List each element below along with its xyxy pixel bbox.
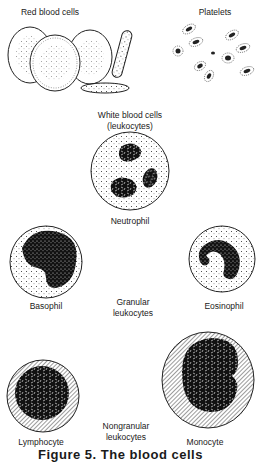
lymphocyte-label: Lymphocyte	[11, 437, 71, 447]
basophil-label: Basophil	[16, 301, 76, 311]
eosinophil	[189, 226, 255, 292]
red-blood-cells-label: Red blood cells	[10, 7, 90, 17]
granular-leukocytes-label: leukocytes	[103, 308, 163, 318]
basophil	[10, 226, 82, 298]
neutrophil	[91, 132, 169, 210]
leukocytes-label: (leukocytes)	[90, 121, 170, 131]
platelets	[173, 22, 255, 83]
monocyte-label: Monocyte	[175, 437, 235, 447]
monocyte	[162, 332, 254, 428]
white-blood-cells-label: White blood cells	[90, 110, 170, 120]
figure-caption: Figure 5. The blood cells	[38, 447, 203, 462]
neutrophil-label: Neutrophil	[100, 216, 160, 226]
platelets-label: Platelets	[190, 7, 240, 17]
red-blood-cells	[8, 27, 133, 93]
nongranular-label: Nongranular	[96, 421, 156, 431]
nongranular-leukocytes-label: leukocytes	[96, 432, 156, 442]
eosinophil-label: Eosinophil	[194, 301, 254, 311]
lymphocyte	[7, 360, 79, 432]
granular-label: Granular	[103, 297, 163, 307]
